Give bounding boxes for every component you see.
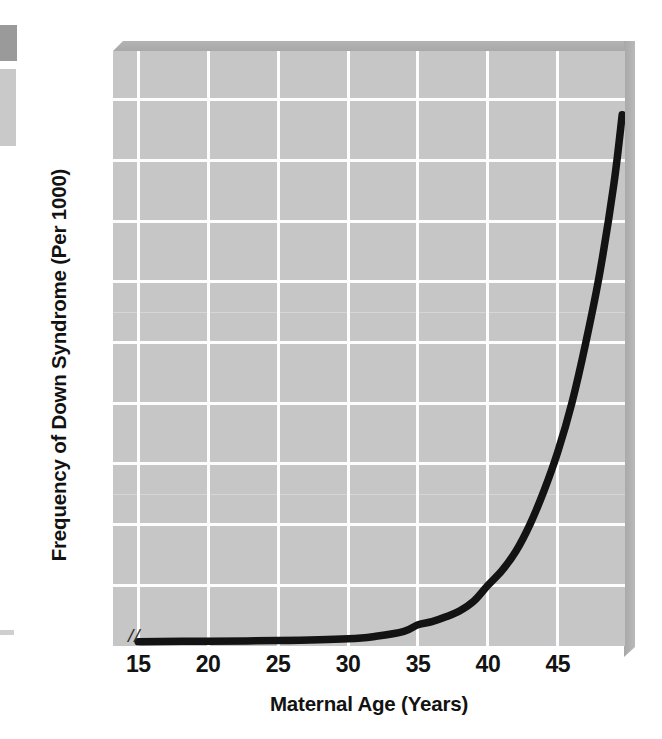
- plot-shadow-top: [113, 41, 634, 51]
- plot-shadow-right: [624, 41, 635, 657]
- plot-area: [113, 51, 625, 646]
- axis-break-icon: //: [128, 626, 141, 645]
- x-tick-label: 15: [113, 653, 163, 676]
- x-tick-label: 45: [533, 653, 583, 676]
- data-curve: [113, 51, 625, 646]
- figure-down-syndrome-frequency: 102030405060708090 15202530354045 // Fre…: [0, 0, 662, 739]
- x-tick-label: 35: [393, 653, 443, 676]
- x-axis-tick-labels: 15202530354045: [0, 653, 662, 685]
- x-tick-label: 30: [323, 653, 373, 676]
- y-axis-title: Frequency of Down Syndrome (Per 1000): [46, 75, 72, 655]
- x-axis-title: Maternal Age (Years): [113, 692, 625, 716]
- x-tick-label: 25: [253, 653, 303, 676]
- x-tick-label: 20: [183, 653, 233, 676]
- x-tick-label: 40: [463, 653, 513, 676]
